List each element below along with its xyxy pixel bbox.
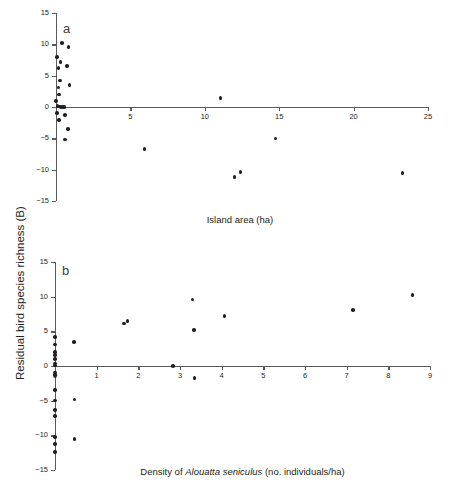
data-point — [73, 437, 77, 441]
panel-b-x-tick-label: 3 — [170, 372, 190, 380]
panel-a-x-tick — [354, 107, 355, 111]
data-point — [57, 86, 61, 90]
panel-b-letter: b — [62, 264, 69, 277]
panel-a-y-tick — [52, 76, 56, 77]
panel-a-x-tick-label: 20 — [344, 113, 364, 121]
data-point — [53, 388, 57, 392]
panel-a-y-tick-label: 10 — [22, 40, 49, 48]
data-point — [53, 435, 57, 439]
data-point — [53, 373, 57, 377]
data-point — [66, 127, 70, 131]
panel-b-y-tick-label: −15 — [21, 466, 48, 474]
x-title-suffix: (no. individuals/ha) — [262, 466, 344, 477]
panel-a-letter: a — [63, 22, 70, 35]
panel-a-y-tick — [52, 138, 56, 139]
data-point — [63, 113, 67, 117]
panel-a-y-tick-label: 0 — [22, 103, 49, 111]
data-point — [68, 83, 72, 87]
panel-b-x-tick — [430, 366, 431, 370]
x-title-prefix: Density of — [140, 466, 185, 477]
data-point — [65, 64, 69, 68]
panel-b-x-axis-title: Density of Alouatta seniculus (no. indiv… — [55, 466, 430, 477]
panel-a-y-tick — [52, 170, 56, 171]
data-point — [59, 60, 63, 64]
panel-b-y-tick-label: 0 — [21, 362, 48, 370]
data-point — [192, 328, 196, 332]
panel-b-x-tick-label: 5 — [253, 372, 273, 380]
data-point — [57, 66, 61, 70]
panel-b-x-tick-label: 4 — [212, 372, 232, 380]
data-point — [239, 170, 243, 174]
data-point — [191, 298, 195, 302]
panel-a-y-tick-label: 15 — [22, 9, 49, 17]
data-point — [55, 111, 59, 115]
panel-a-y-tick-label: −5 — [22, 134, 49, 142]
panel-b-x-tick — [305, 366, 306, 370]
panel-b-y-tick-label: 15 — [21, 258, 48, 266]
figure-container: Residual bird species richness (B) a Isl… — [0, 0, 450, 493]
data-point — [411, 293, 415, 297]
panel-a-x-tick — [279, 107, 280, 111]
panel-b-y-tick — [51, 297, 55, 298]
panel-b-x-tick — [97, 366, 98, 370]
data-point — [54, 99, 58, 103]
panel-b-x-tick — [388, 366, 389, 370]
panel-b-y-tick-label: −10 — [21, 431, 48, 439]
panel-b-x-tick-label: 2 — [128, 372, 148, 380]
data-point — [57, 93, 61, 97]
panel-a-y-tick-label: −15 — [22, 197, 49, 205]
panel-b-y-tick — [51, 262, 55, 263]
panel-b-y-tick-label: −5 — [21, 397, 48, 405]
data-point — [53, 450, 57, 454]
panel-b-x-tick-label: 6 — [295, 372, 315, 380]
species-name-italic: Alouatta seniculus — [185, 466, 262, 477]
panel-a-x-axis — [56, 107, 428, 108]
data-point — [67, 45, 71, 49]
data-point — [63, 138, 67, 142]
data-point — [53, 357, 57, 361]
data-point — [143, 147, 147, 151]
panel-a-y-tick — [52, 201, 56, 202]
data-point — [53, 408, 57, 412]
panel-a-x-tick-label: 10 — [195, 113, 215, 121]
panel-a-x-tick — [205, 107, 206, 111]
panel-a-y-tick — [52, 44, 56, 45]
data-point — [401, 171, 405, 175]
panel-a-x-tick-label: 15 — [269, 113, 289, 121]
panel-b-x-tick — [347, 366, 348, 370]
panel-b-y-tick-label: 5 — [21, 327, 48, 335]
data-point — [219, 96, 223, 100]
panel-b-x-axis — [55, 366, 430, 367]
data-point — [351, 308, 355, 312]
panel-a-x-axis-title: Island area (ha) — [130, 214, 350, 225]
data-point — [58, 79, 62, 83]
panel-b-y-tick-label: 10 — [21, 293, 48, 301]
data-point — [60, 41, 64, 45]
data-point — [53, 335, 57, 339]
panel-b-x-tick — [222, 366, 223, 370]
panel-b-x-tick — [263, 366, 264, 370]
panel-a-y-tick-label: −10 — [22, 166, 49, 174]
data-point — [53, 343, 57, 347]
data-point — [53, 414, 57, 418]
data-point — [53, 442, 57, 446]
panel-b-x-tick — [180, 366, 181, 370]
panel-b-y-tick — [51, 331, 55, 332]
panel-a-x-tick-label: 5 — [120, 113, 140, 121]
data-point — [193, 376, 197, 380]
panel-b-x-tick — [138, 366, 139, 370]
panel-b-y-tick — [51, 470, 55, 471]
data-point — [55, 55, 59, 59]
panel-b-x-tick-label: 9 — [420, 372, 440, 380]
data-point — [53, 364, 57, 368]
data-point — [126, 319, 130, 323]
panel-b-x-tick-label: 8 — [378, 372, 398, 380]
data-point — [171, 364, 175, 368]
panel-b-x-tick-label: 1 — [87, 372, 107, 380]
data-point — [233, 175, 237, 179]
data-point — [274, 137, 278, 141]
panel-b-x-tick-label: 7 — [337, 372, 357, 380]
panel-a-x-tick-label: 25 — [418, 113, 438, 121]
data-point — [73, 398, 77, 402]
panel-a-x-tick — [428, 107, 429, 111]
